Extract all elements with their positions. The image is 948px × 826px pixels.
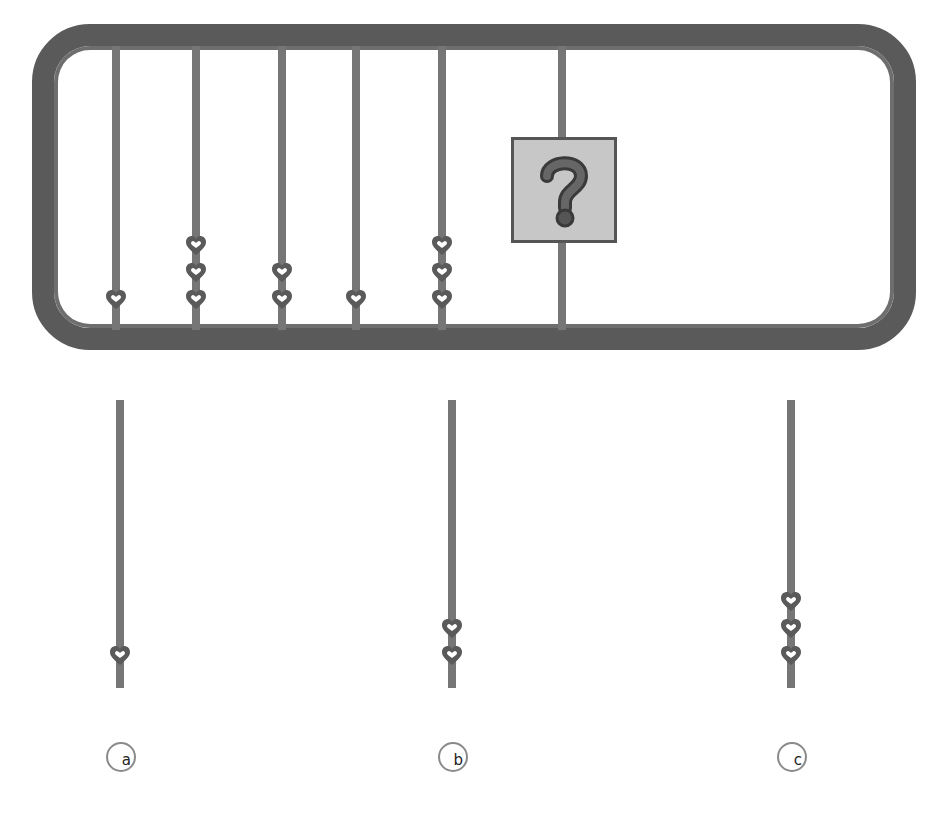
heart-bead-icon xyxy=(780,618,802,640)
abacus-frame xyxy=(32,24,916,350)
heart-bead-icon xyxy=(441,645,463,667)
sequence-rod xyxy=(112,46,120,330)
heart-bead-icon xyxy=(431,235,453,257)
heart-bead-icon xyxy=(271,262,293,284)
heart-bead-icon xyxy=(109,645,131,667)
heart-bead-icon xyxy=(185,235,207,257)
heart-bead-icon xyxy=(271,289,293,311)
heart-bead-icon xyxy=(431,289,453,311)
heart-bead-icon xyxy=(431,262,453,284)
option-label-a[interactable]: a xyxy=(106,742,136,772)
heart-bead-icon xyxy=(185,262,207,284)
sequence-rod xyxy=(352,46,360,330)
heart-bead-icon xyxy=(780,645,802,667)
option-letter: c xyxy=(794,753,802,768)
heart-bead-icon xyxy=(441,618,463,640)
sequence-rod xyxy=(278,46,286,330)
heart-bead-icon xyxy=(185,289,207,311)
unknown-box xyxy=(511,137,617,243)
option-letter: b xyxy=(453,753,463,768)
sequence-rod xyxy=(192,46,200,330)
option-label-c[interactable]: c xyxy=(777,742,807,772)
heart-bead-icon xyxy=(345,289,367,311)
heart-bead-icon xyxy=(780,591,802,613)
question-mark-icon xyxy=(529,150,599,230)
option-label-b[interactable]: b xyxy=(438,742,468,772)
option-letter: a xyxy=(122,753,131,768)
heart-bead-icon xyxy=(105,289,127,311)
sequence-rod xyxy=(438,46,446,330)
